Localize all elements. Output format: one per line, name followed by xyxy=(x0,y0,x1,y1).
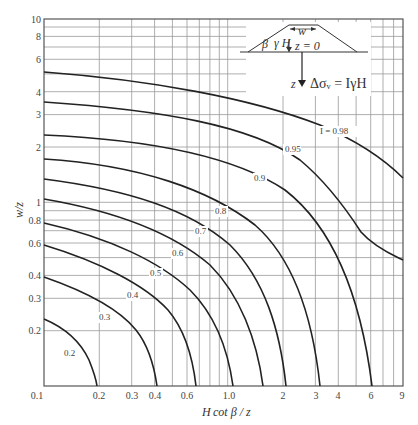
svg-text:0.6: 0.6 xyxy=(29,238,42,249)
x-axis-label: cot β / z xyxy=(213,405,251,419)
label-0.6: 0.6 xyxy=(172,248,184,258)
beta-label: β xyxy=(261,37,268,51)
label-0.8: 0.8 xyxy=(215,206,227,216)
svg-text:6: 6 xyxy=(369,390,374,401)
x-axis-label-h: H xyxy=(201,405,212,419)
svg-text:6: 6 xyxy=(36,54,41,65)
label-0.2: 0.2 xyxy=(64,348,75,358)
label-0.95: 0.95 xyxy=(285,144,301,154)
svg-text:0.4: 0.4 xyxy=(149,390,162,401)
label-0.4: 0.4 xyxy=(127,290,139,300)
label-0.9: 0.9 xyxy=(254,173,266,183)
curve-0.9 xyxy=(44,135,372,386)
influence-curves xyxy=(44,72,403,386)
curve-0.5 xyxy=(44,223,233,386)
label-0.98: I = 0.98 xyxy=(320,126,349,136)
influence-chart: I = 0.98 0.95 0.9 0.8 0.7 0.6 0.5 0.4 0.… xyxy=(0,0,418,425)
svg-text:0.3: 0.3 xyxy=(29,293,42,304)
svg-text:0.8: 0.8 xyxy=(29,215,42,226)
z0-label: z = 0 xyxy=(294,39,320,53)
embankment-diagram: w β γ H z = 0 z Δσᵥ = IγH xyxy=(240,22,371,96)
svg-text:10: 10 xyxy=(31,14,41,25)
label-0.3: 0.3 xyxy=(99,312,111,322)
label-0.5: 0.5 xyxy=(150,268,162,278)
z-label: z xyxy=(290,77,296,91)
svg-text:0.4: 0.4 xyxy=(29,270,42,281)
svg-text:4: 4 xyxy=(336,390,341,401)
curve-0.3 xyxy=(44,277,157,386)
svg-text:8: 8 xyxy=(36,31,41,42)
svg-text:9: 9 xyxy=(400,390,405,401)
svg-text:2: 2 xyxy=(36,142,41,153)
label-0.7: 0.7 xyxy=(195,226,207,236)
equation: Δσᵥ = IγH xyxy=(310,76,367,91)
y-axis-ticks: 10 8 6 4 3 2 1 0.8 0.6 0.4 0.3 0.2 xyxy=(29,14,42,336)
svg-text:0.3: 0.3 xyxy=(126,390,139,401)
curve-0.7 xyxy=(44,179,286,386)
y-axis-label: w/z xyxy=(12,202,26,218)
curve-0.95 xyxy=(44,102,403,260)
svg-text:0.2: 0.2 xyxy=(93,390,106,401)
svg-text:2: 2 xyxy=(281,390,286,401)
svg-text:1: 1 xyxy=(36,197,41,208)
svg-text:3: 3 xyxy=(314,390,319,401)
svg-text:4: 4 xyxy=(36,87,41,98)
svg-text:3: 3 xyxy=(36,109,41,120)
x-axis-ticks: 0.1 0.2 0.3 0.4 0.6 1.0 2 3 4 6 9 xyxy=(31,390,405,401)
svg-text:1.0: 1.0 xyxy=(223,390,236,401)
svg-text:0.1: 0.1 xyxy=(31,390,44,401)
w-label: w xyxy=(298,24,306,38)
gamma-h-label: γ H xyxy=(274,36,292,50)
svg-text:0.2: 0.2 xyxy=(29,325,42,336)
svg-text:0.6: 0.6 xyxy=(181,390,194,401)
